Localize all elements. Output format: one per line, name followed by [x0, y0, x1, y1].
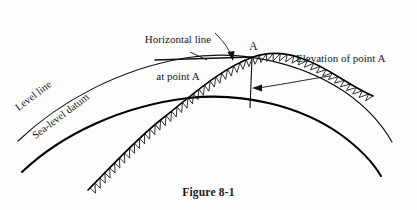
label-horizontal-line-row1: Horizontal line	[118, 33, 238, 45]
figure-caption: Figure 8-1	[0, 186, 417, 199]
label-elevation-of-point-a: Elevation of point A	[296, 52, 386, 64]
label-point-a: A	[249, 40, 258, 53]
figure-container: Horizontal line at point A Elevation of …	[0, 0, 417, 210]
elevation-leader-arrow	[252, 76, 330, 92]
label-horizontal-line-row2: at point A	[118, 70, 238, 82]
label-horizontal-line-at-point-a: Horizontal line at point A	[118, 8, 238, 107]
